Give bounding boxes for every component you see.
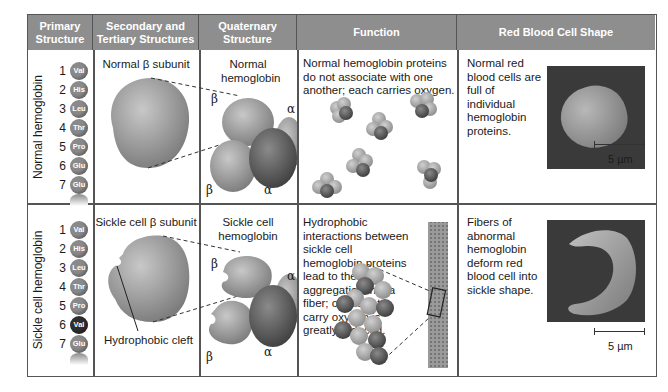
hemoglobin-comparison-table: Primary Structure Secondary and Tertiary… (27, 14, 657, 377)
position: 4 (54, 280, 66, 294)
beta-label: β (206, 183, 213, 197)
residue-bead: His (70, 81, 88, 99)
header-rbc-shape: Red Blood Cell Shape (457, 15, 655, 50)
header-label: Red Blood Cell Shape (499, 26, 613, 39)
position: 1 (54, 64, 66, 78)
residue-bead: Thr (70, 119, 88, 137)
residue-bead: Pro (70, 138, 88, 156)
residue-bead: Glu (70, 157, 88, 175)
residue-bead: Thr (70, 278, 88, 296)
alpha-label: α (264, 345, 272, 359)
header-label: Function (353, 26, 399, 39)
position: 4 (54, 121, 66, 135)
residue-bead: Pro (70, 297, 88, 315)
hydrophobic-cleft-label: Hydrophobic cleft (104, 334, 193, 348)
amino-acid: 3Leu (54, 258, 94, 277)
position: 3 (54, 102, 66, 116)
residue-bead: Leu (70, 259, 88, 277)
row-label-text: Normal hemoglobin (31, 74, 45, 178)
beta-label: β (206, 350, 213, 364)
beta-label: β (211, 92, 218, 106)
amino-acid: 1Val (54, 61, 94, 80)
position: 5 (54, 299, 66, 313)
amino-acid: 4Thr (54, 118, 94, 137)
sickle-rbc-micrograph (547, 220, 645, 322)
residue-bead: Glu (70, 176, 88, 194)
amino-acid: 5Pro (54, 296, 94, 315)
header-primary: Primary Structure (28, 15, 93, 50)
row-label-normal: Normal hemoglobin (28, 50, 48, 203)
divider (457, 50, 459, 376)
primary-sequence-sickle: 1Val 2His 3Leu 4Thr 5Pro 6Val 7Glu (54, 220, 94, 365)
beta-label: β (211, 257, 218, 271)
quaternary-title-normal: Normal hemoglobin (221, 58, 275, 85)
residue-bead: Val (70, 62, 88, 80)
residue-bead: Val (70, 221, 88, 239)
header-quaternary: Quaternary Structure (199, 15, 297, 50)
primary-sequence-normal: 1Val 2His 3Leu 4Thr 5Pro 6Glu 7Glu (54, 61, 94, 206)
amino-acid: 5Pro (54, 137, 94, 156)
quaternary-title-sickle: Sickle cell hemoglobin (209, 216, 287, 243)
amino-acid-mutated: 6Val (54, 315, 94, 334)
amino-acid: 1Val (54, 220, 94, 239)
position: 3 (54, 261, 66, 275)
residue-bead: Glu (70, 335, 88, 353)
chain-continuation (70, 194, 88, 206)
amino-acid: 2His (54, 80, 94, 99)
position: 2 (54, 83, 66, 97)
position: 6 (54, 159, 66, 173)
position: 1 (54, 223, 66, 237)
amino-acid: 7Glu (54, 175, 94, 194)
row-label-sickle: Sickle cell hemoglobin (28, 204, 48, 376)
alpha-label: α (287, 269, 295, 283)
rbc-text-normal: Normal red blood cells are full of indiv… (467, 57, 545, 138)
header-function: Function (297, 15, 457, 50)
amino-acid: 4Thr (54, 277, 94, 296)
hemoglobin-fiber-illustration (297, 204, 457, 376)
chain-continuation (70, 353, 88, 365)
row-label-text: Sickle cell hemoglobin (31, 231, 45, 350)
scale-label: 5 µm (608, 340, 633, 352)
alpha-label: α (264, 183, 272, 197)
header-label: Primary Structure (35, 20, 85, 46)
scale-bar (594, 144, 645, 145)
amino-acid: 7Glu (54, 334, 94, 353)
amino-acid: 3Leu (54, 99, 94, 118)
position: 6 (54, 318, 66, 332)
position: 5 (54, 140, 66, 154)
amino-acid: 2His (54, 239, 94, 258)
scale-bar (594, 331, 645, 332)
sickle-rbc-cell (547, 220, 645, 322)
alpha-label: α (287, 102, 295, 116)
position: 7 (54, 337, 66, 351)
amino-acid: 6Glu (54, 156, 94, 175)
header-label: Quaternary Structure (213, 20, 283, 46)
position: 7 (54, 178, 66, 192)
scale-label: 5 µm (608, 153, 633, 165)
header-label: Secondary and Tertiary Structures (96, 20, 196, 46)
header-secondary-tertiary: Secondary and Tertiary Structures (93, 15, 199, 50)
residue-bead-mutated: Val (70, 316, 88, 334)
rbc-text-sickle: Fibers of abnormal hemoglobin deform red… (467, 216, 547, 297)
residue-bead: His (70, 240, 88, 258)
position: 2 (54, 242, 66, 256)
residue-bead: Leu (70, 100, 88, 118)
individual-hemoglobin-molecules (297, 50, 457, 203)
